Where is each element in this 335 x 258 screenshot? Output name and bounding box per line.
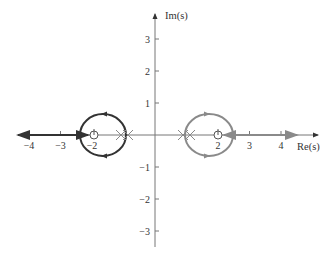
x-tick-label: 3 xyxy=(247,140,252,151)
x-tick-label: −2 xyxy=(87,140,98,151)
x-tick-label: −4 xyxy=(24,140,35,151)
right-locus-arrow-top xyxy=(204,112,210,117)
y-tick-label: −1 xyxy=(139,162,150,173)
zero-marker-left xyxy=(90,129,98,139)
y-tick-label: −3 xyxy=(139,226,150,237)
root-locus-plot: −4−3−2234 321−1−2−3 Im(s) Re(s) xyxy=(0,0,335,258)
right-locus-arrow-bottom xyxy=(204,154,210,159)
x-tick-label: 4 xyxy=(279,140,284,151)
y-tick-label: 2 xyxy=(145,66,150,77)
y-axis-label: Im(s) xyxy=(165,10,188,22)
zero-marker-right xyxy=(214,129,222,139)
x-tick-label: 2 xyxy=(216,140,221,151)
x-axis-label: Re(s) xyxy=(297,141,320,153)
x-tick-label: −3 xyxy=(55,140,66,151)
left-locus-arrow-top xyxy=(101,112,107,117)
y-tick-label: −2 xyxy=(139,194,150,205)
y-tick-label: 3 xyxy=(145,34,150,45)
axes xyxy=(20,14,318,247)
left-locus-arrow-bottom xyxy=(101,154,107,159)
y-tick-label: 1 xyxy=(145,98,150,109)
